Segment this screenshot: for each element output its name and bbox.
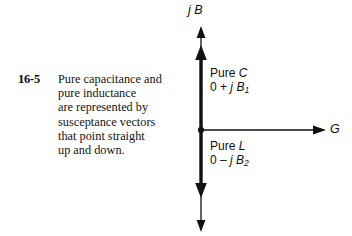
horizontal-axis-label: G: [330, 122, 340, 136]
pure-inductance-title: Pure L: [210, 139, 249, 153]
origin-dot: [198, 127, 204, 133]
figure-number: 16-5: [18, 72, 40, 87]
vertical-axis-label-b: B: [194, 3, 202, 17]
pure-inductance-label: Pure L 0 – j B2: [210, 139, 249, 170]
caption-line: that point straight: [58, 129, 186, 143]
pure-capacitance-vector-arrowhead-icon: [195, 45, 207, 60]
pure-capacitance-value: 0 + j B1: [210, 80, 249, 97]
pure-inductance-vector-arrowhead-icon: [195, 183, 207, 198]
vertical-axis-label: j B: [188, 3, 203, 17]
horizontal-axis-arrow-right-icon: [313, 125, 326, 134]
figure-page: j B G Pure C 0 + j B1 Pure L 0 – j B2 16…: [0, 0, 352, 236]
vertical-axis-arrow-up-icon: [197, 26, 206, 38]
pure-capacitance-title: Pure C: [210, 66, 249, 80]
caption-line: pure inductance: [58, 86, 186, 100]
caption-line: up and down.: [58, 143, 186, 157]
caption-line: susceptance vectors: [58, 115, 186, 129]
caption-line: Pure capacitance and: [58, 72, 186, 86]
pure-inductance-value: 0 – j B2: [210, 153, 249, 170]
pure-capacitance-label: Pure C 0 + j B1: [210, 66, 249, 97]
caption-line: are represented by: [58, 100, 186, 114]
horizontal-axis-label-g: G: [330, 122, 340, 136]
vertical-axis-arrow-down-icon: [197, 220, 206, 232]
figure-caption-text: Pure capacitance and pure inductance are…: [58, 72, 186, 157]
